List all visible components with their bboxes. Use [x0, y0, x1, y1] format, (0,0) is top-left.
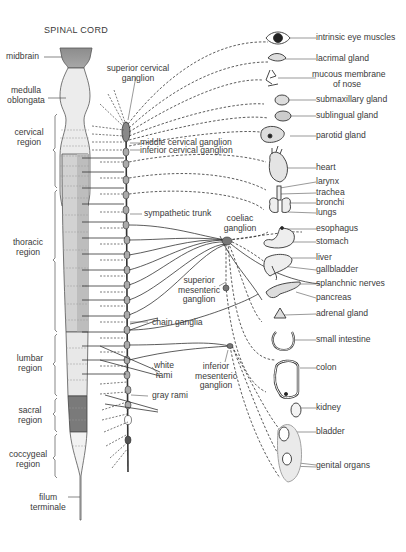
label-lacrimal-gland: lacrimal gland	[316, 54, 369, 64]
label-small-intestine: small intestine	[316, 335, 370, 345]
nose-icon	[266, 70, 278, 86]
stomach-icon	[264, 227, 294, 249]
lacrimal-gland-icon	[268, 54, 286, 62]
kidney-icon	[291, 403, 301, 417]
label-inferior-cervical-ganglion: inferior cervical ganglion	[140, 146, 233, 156]
organ-illustrations	[261, 32, 302, 482]
label-larynx: larynx	[316, 177, 339, 187]
label-sympathetic-trunk: sympathetic trunk	[144, 209, 211, 219]
label-cervical-region: cervicalregion	[8, 128, 50, 147]
label-bladder: bladder	[316, 427, 345, 437]
coeliac-ganglion-node	[222, 237, 232, 245]
ganglia	[222, 237, 233, 349]
title: SPINAL CORD	[44, 26, 108, 36]
label-chain-ganglia: chain ganglia	[152, 318, 203, 328]
label-pancreas: pancreas	[316, 293, 351, 303]
label-filum-terminale: filumterminale	[26, 493, 70, 512]
label-sacral-region: sacralregion	[8, 406, 52, 425]
label-superior-mesenteric-ganglion: superiormesentericganglion	[176, 276, 222, 305]
label-submaxillary-gland: submaxillary gland	[316, 95, 387, 105]
liver-icon	[264, 254, 292, 280]
label-colon: colon	[316, 363, 337, 373]
heart-icon	[269, 146, 287, 182]
label-thoracic-region: thoracicregion	[6, 238, 50, 257]
label-intrinsic-eye-muscles: intrinsic eye muscles	[316, 33, 395, 43]
label-superior-cervical-ganglion: superior cervicalganglion	[104, 64, 172, 83]
sublingual-gland-icon	[275, 111, 291, 121]
small-intestine-icon	[273, 332, 294, 350]
superior-mesenteric-node	[223, 285, 229, 291]
eye-icon	[266, 32, 290, 44]
label-coeliac-ganglion: coeliacganglion	[220, 214, 260, 233]
lungs-icon	[269, 186, 290, 213]
label-medulla: medullaoblongata	[4, 86, 48, 105]
label-mucous-membrane-of-nose: mucous membraneof nose	[312, 70, 382, 89]
label-parotid-gland: parotid gland	[316, 131, 366, 141]
label-gallbladder: gallbladder	[316, 265, 358, 275]
label-esophagus: esophagus	[316, 224, 358, 234]
label-midbrain: midbrain	[6, 52, 39, 62]
label-lungs: lungs	[316, 208, 337, 218]
label-white-rami: whiterami	[152, 361, 176, 380]
label-gray-rami: gray rami	[152, 391, 188, 401]
label-lumbar-region: lumbarregion	[8, 354, 52, 373]
rami-gray	[92, 90, 128, 468]
colon-icon	[275, 361, 298, 398]
label-sublingual-gland: sublingual gland	[316, 111, 378, 121]
pancreas-icon	[266, 282, 300, 298]
label-inferior-mesenteric-ganglion: inferiormesentericganglion	[192, 362, 240, 391]
label-adrenal-gland: adrenal gland	[316, 309, 368, 319]
label-genital-organs: genital organs	[316, 461, 370, 471]
label-coccygeal-region: coccygealregion	[2, 450, 54, 469]
submaxillary-gland-icon	[275, 95, 289, 105]
label-heart: heart	[316, 163, 336, 173]
parotid-gland-icon	[261, 126, 284, 142]
label-kidney: kidney	[316, 403, 341, 413]
bladder-icon	[277, 425, 301, 482]
label-liver: liver	[316, 253, 332, 263]
adrenal-gland-icon	[274, 308, 286, 318]
spinal-cord	[60, 48, 92, 520]
label-splanchnic-nerves: splanchnic nerves	[316, 279, 385, 289]
inferior-mesenteric-node	[227, 344, 233, 349]
sympathetic-trunk	[122, 122, 132, 472]
label-stomach: stomach	[316, 237, 348, 247]
